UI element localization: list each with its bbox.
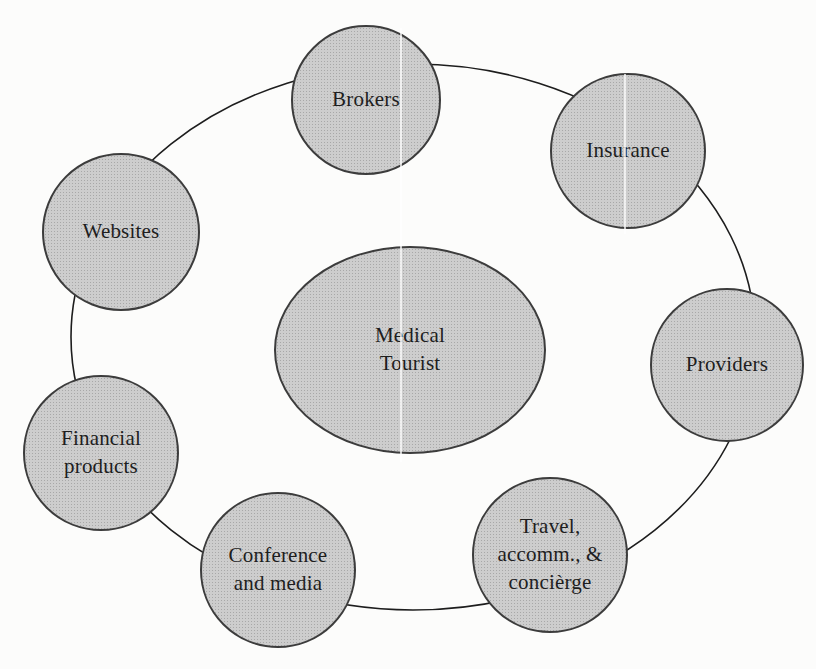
node-brokers: Brokers [291, 25, 441, 175]
node-brokers-label: Brokers [332, 86, 400, 114]
node-conference-and-media: Conference and media [200, 492, 356, 648]
node-providers-label: Providers [686, 351, 768, 379]
node-financial-label: Financial products [61, 425, 141, 480]
node-travel-label: Travel, accomm., & concièrge [497, 513, 602, 596]
node-providers: Providers [650, 288, 804, 442]
node-medical-tourist-label: Medical Tourist [375, 322, 445, 377]
node-travel-accomm-concierge: Travel, accomm., & concièrge [472, 477, 628, 633]
node-insurance: Insurance [550, 73, 706, 229]
node-insurance-label: Insurance [586, 137, 669, 165]
diagram-canvas: Brokers Insurance Providers Travel, acco… [0, 0, 816, 669]
node-medical-tourist-hub: Medical Tourist [274, 246, 546, 454]
node-conference-label: Conference and media [229, 542, 328, 597]
node-financial-products: Financial products [23, 375, 179, 531]
node-websites: Websites [42, 153, 200, 311]
node-websites-label: Websites [83, 218, 160, 246]
